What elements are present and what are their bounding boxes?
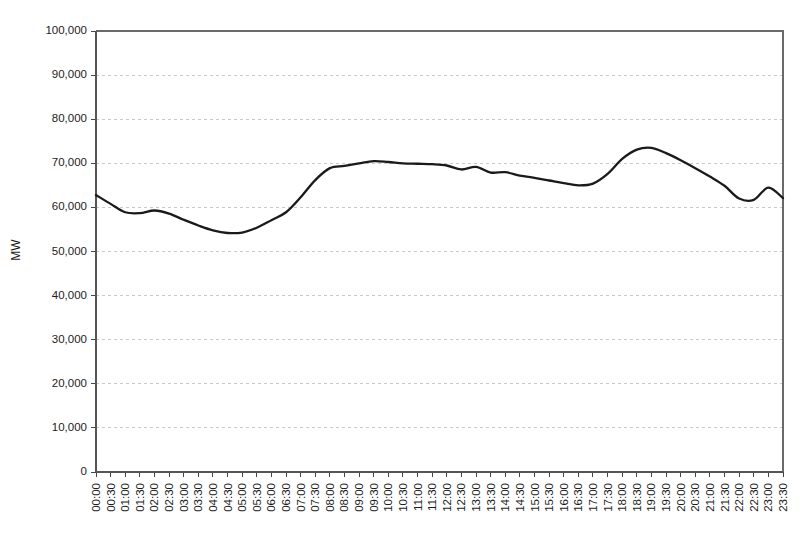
x-tick-label: 11:30: [426, 483, 438, 511]
x-tick-label: 04:00: [207, 483, 219, 512]
x-tick-label: 16:00: [558, 483, 570, 512]
x-tick-label: 04:30: [222, 483, 234, 512]
x-tick-label: 02:30: [163, 483, 175, 512]
x-tick-label: 16:30: [572, 483, 584, 512]
x-tick-label: 07:00: [295, 483, 307, 512]
x-tick-label: 21:30: [719, 483, 731, 512]
x-tick-label: 15:30: [543, 483, 555, 512]
x-tick-label: 12:00: [441, 483, 453, 512]
x-tick-label: 10:00: [382, 483, 394, 512]
y-tick-label: 40,000: [52, 289, 87, 301]
x-tick-label: 20:30: [689, 483, 701, 512]
x-tick-label: 22:00: [733, 483, 745, 512]
x-tick-label: 18:30: [631, 483, 643, 512]
x-tick-label: 09:00: [353, 483, 365, 512]
x-tick-label: 08:30: [338, 483, 350, 512]
x-tick-label: 17:30: [602, 483, 614, 512]
x-tick-label: 01:00: [119, 483, 131, 512]
x-tick-label: 14:00: [499, 483, 511, 512]
y-tick-label: 60,000: [52, 200, 87, 212]
x-tick-label: 06:30: [280, 483, 292, 512]
x-tick-label: 00:30: [105, 483, 117, 512]
x-tick-label: 15:00: [529, 483, 541, 512]
x-tick-label: 09:30: [368, 483, 380, 512]
y-axis-tick-labels: 100,00090,00080,00070,00060,00050,00040,…: [45, 24, 87, 477]
x-tick-label: 23:30: [777, 483, 789, 512]
x-tick-label: 23:00: [762, 483, 774, 512]
demand-line-chart: 100,00090,00080,00070,00060,00050,00040,…: [0, 0, 806, 539]
x-tick-label: 19:00: [645, 483, 657, 512]
x-tick-label: 05:30: [251, 483, 263, 512]
x-tick-label: 08:00: [324, 483, 336, 512]
x-tick-label: 18:00: [616, 483, 628, 512]
y-axis-label: MW: [9, 239, 23, 261]
y-tick-label: 10,000: [52, 421, 87, 433]
x-tick-label: 00:00: [90, 483, 102, 512]
y-tick-label: 80,000: [52, 112, 87, 124]
x-tick-label: 20:00: [675, 483, 687, 512]
demand-series-line: [96, 148, 783, 234]
x-tick-label: 19:30: [660, 483, 672, 512]
x-tick-label: 06:00: [265, 483, 277, 512]
y-tick-label: 30,000: [52, 333, 87, 345]
x-tick-label: 02:00: [148, 483, 160, 512]
y-tick-label: 70,000: [52, 156, 87, 168]
x-tick-label: 07:30: [309, 483, 321, 512]
x-tick-label: 17:00: [587, 483, 599, 512]
gridlines: [96, 75, 783, 428]
x-tick-label: 22:30: [748, 483, 760, 512]
x-axis-tick-labels: 00:0000:3001:0001:3002:0002:3003:0003:30…: [90, 483, 789, 512]
y-tick-label: 20,000: [52, 377, 87, 389]
chart-container: 100,00090,00080,00070,00060,00050,00040,…: [0, 0, 806, 539]
x-tick-label: 21:00: [704, 483, 716, 512]
y-tick-label: 50,000: [52, 245, 87, 257]
x-tick-label: 13:30: [485, 483, 497, 512]
x-tick-label: 11:00: [412, 483, 424, 511]
x-tick-label: 05:00: [236, 483, 248, 512]
x-tick-label: 13:00: [470, 483, 482, 512]
x-tick-label: 12:30: [455, 483, 467, 512]
x-axis-ticks: [96, 472, 783, 477]
y-tick-label: 90,000: [52, 68, 87, 80]
y-axis-ticks: [91, 31, 96, 472]
x-tick-label: 01:30: [134, 483, 146, 512]
x-tick-label: 03:00: [178, 483, 190, 512]
x-tick-label: 14:30: [514, 483, 526, 512]
x-tick-label: 03:30: [192, 483, 204, 512]
x-tick-label: 10:30: [397, 483, 409, 512]
y-tick-label: 100,000: [45, 24, 87, 36]
y-tick-label: 0: [81, 465, 87, 477]
